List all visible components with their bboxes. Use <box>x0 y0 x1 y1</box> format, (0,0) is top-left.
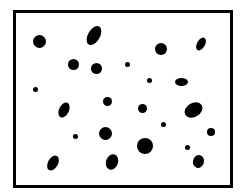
dot-shape <box>68 59 79 70</box>
dot-shape <box>147 78 152 83</box>
dot-shape <box>185 145 190 150</box>
dot-shape <box>103 97 112 106</box>
dot-shape <box>175 78 188 86</box>
dot-shape <box>99 127 112 140</box>
dot-shape <box>138 104 147 113</box>
dot-shape <box>91 63 102 74</box>
dot-shape <box>155 43 167 55</box>
dot-shape <box>73 134 78 139</box>
dot-shape <box>33 35 46 48</box>
dot-shape <box>125 62 130 67</box>
dot-shape <box>33 87 38 92</box>
dot-shape <box>137 138 153 154</box>
dot-shape <box>161 122 166 127</box>
dot-shape <box>207 128 215 136</box>
